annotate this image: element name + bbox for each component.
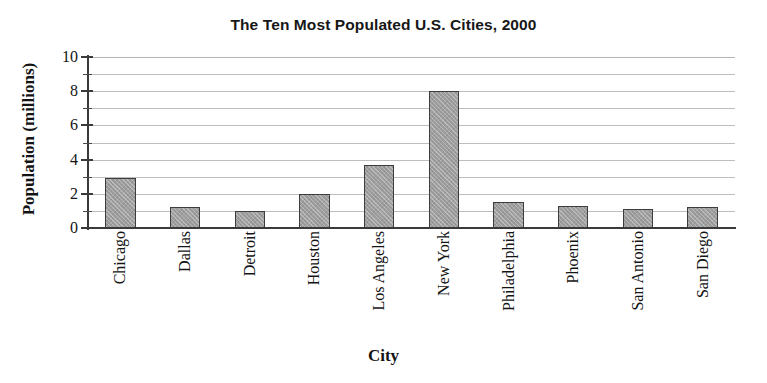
x-axis-tick-labels: ChicagoDallasDetroitHoustonLos AngelesNe…	[88, 231, 735, 341]
gridline	[88, 177, 735, 178]
y-axis-tick-labels: 0246810	[22, 0, 78, 383]
gridline	[88, 160, 735, 161]
x-axis-tick-label: Phoenix	[565, 231, 581, 283]
gridline	[88, 194, 735, 195]
x-axis-tick-label: Detroit	[242, 231, 258, 276]
x-axis-tick-label: Dallas	[177, 231, 193, 272]
bar	[364, 165, 394, 228]
bar	[623, 209, 653, 228]
x-axis-tick-label: Los Angeles	[371, 231, 387, 311]
gridline	[88, 91, 735, 92]
y-axis-tick-label: 0	[38, 220, 78, 236]
x-axis-tick-label-cell: Detroit	[217, 231, 282, 339]
x-axis-tick-label-cell: Los Angeles	[347, 231, 412, 339]
x-axis-tick-label-cell: Houston	[282, 231, 347, 339]
gridline	[88, 125, 735, 126]
y-axis-tick	[81, 124, 93, 126]
bar	[105, 178, 135, 228]
x-axis-tick-label: New York	[436, 231, 452, 296]
bar	[170, 207, 200, 228]
bar	[235, 211, 265, 228]
bar	[687, 207, 717, 228]
y-axis-tick-label: 4	[38, 152, 78, 168]
x-axis-title: City	[0, 346, 767, 366]
plot-area	[88, 57, 735, 228]
bar	[558, 206, 588, 228]
y-axis-tick-label: 6	[38, 117, 78, 133]
x-axis-tick-label: Houston	[306, 231, 322, 285]
bar	[299, 194, 329, 228]
gridline	[88, 74, 735, 75]
x-axis-tick-label: Philadelphia	[501, 231, 517, 311]
x-axis-tick-label: San Diego	[695, 231, 711, 298]
y-axis-tick-label: 10	[38, 49, 78, 65]
x-axis-tick-label-cell: Dallas	[153, 231, 218, 339]
y-axis-tick	[81, 56, 93, 58]
y-axis-tick-label: 8	[38, 83, 78, 99]
x-axis-tick-label-cell: Philadelphia	[476, 231, 541, 339]
gridline	[88, 143, 735, 144]
y-axis-minor-tick	[83, 211, 92, 212]
gridline	[88, 57, 735, 58]
x-axis-tick-label-cell: Phoenix	[541, 231, 606, 339]
x-axis-tick-label-cell: New York	[412, 231, 477, 339]
y-axis-tick	[81, 227, 93, 229]
y-axis-minor-tick	[83, 143, 92, 144]
y-axis-tick	[81, 159, 93, 161]
bar	[429, 91, 459, 228]
y-axis-minor-tick	[83, 74, 92, 75]
bar-chart-figure: The Ten Most Populated U.S. Cities, 2000…	[0, 0, 767, 383]
y-axis-minor-tick	[83, 108, 92, 109]
x-axis-tick-label-cell: San Diego	[670, 231, 735, 339]
gridline	[88, 108, 735, 109]
x-axis-line	[81, 227, 736, 229]
y-axis-minor-tick	[83, 177, 92, 178]
y-axis-tick	[81, 193, 93, 195]
x-axis-tick-label-cell: San Antonio	[606, 231, 671, 339]
bar	[493, 202, 523, 228]
x-axis-tick-label: Chicago	[112, 231, 128, 284]
chart-title: The Ten Most Populated U.S. Cities, 2000	[0, 16, 767, 34]
x-axis-tick-label: San Antonio	[630, 231, 646, 311]
x-axis-tick-label-cell: Chicago	[88, 231, 153, 339]
y-axis-tick-label: 2	[38, 186, 78, 202]
y-axis-tick	[81, 90, 93, 92]
